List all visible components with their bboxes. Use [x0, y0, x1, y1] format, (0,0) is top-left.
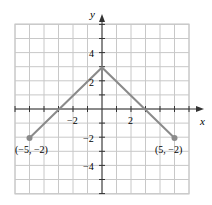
point-left — [27, 135, 33, 141]
y-tick-neg2: −2 — [83, 133, 94, 144]
x-axis-label: x — [199, 115, 205, 127]
point-left-label: (−5, −2) — [15, 144, 48, 156]
y-axis-label: y — [89, 8, 95, 20]
coordinate-plane: x y −2 2 4 2 −2 −4 (−5, −2) (5, −2) — [0, 0, 212, 205]
x-tick-2: 2 — [128, 115, 133, 126]
y-axis-arrow-icon — [99, 14, 105, 22]
x-tick-neg2: −2 — [67, 115, 78, 126]
point-right — [172, 135, 178, 141]
y-tick-neg4: −4 — [83, 161, 94, 172]
y-tick-2: 2 — [89, 77, 94, 88]
x-axis-arrow-icon — [196, 106, 204, 112]
point-right-label: (5, −2) — [155, 144, 182, 156]
y-tick-4: 4 — [89, 48, 94, 59]
